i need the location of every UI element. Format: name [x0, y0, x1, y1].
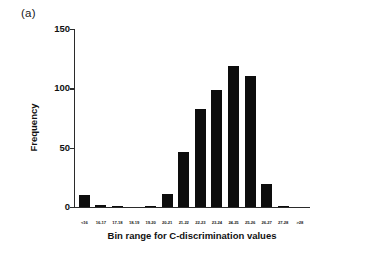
y-axis-title: Frequency [28, 73, 39, 183]
x-tick-label: 19-20 [145, 220, 155, 225]
x-tick-slot: 17-18 [109, 210, 126, 228]
bar-slot [175, 29, 192, 207]
x-tick-slot: 21-22 [175, 210, 192, 228]
x-axis-ticks: <1616-1717-1818-1919-2020-2121-2222-2323… [74, 210, 310, 228]
x-tick-label: 21-22 [179, 220, 189, 225]
panel-label: (a) [21, 7, 36, 19]
x-tick-label: >28 [296, 220, 303, 225]
x-tick-label: <16 [81, 220, 88, 225]
x-tick-label: 24-25 [228, 220, 238, 225]
bar [162, 194, 173, 207]
bar [145, 206, 156, 207]
bar-slot [109, 29, 126, 207]
x-tick-slot: 20-21 [159, 210, 176, 228]
bar-slot [242, 29, 259, 207]
bar-slot [225, 29, 242, 207]
y-tick-label: 50 [59, 142, 70, 153]
x-tick-slot: 26-27 [258, 210, 275, 228]
bar-slot [126, 29, 143, 207]
figure-panel: (a) Frequency 050100150 <1616-1717-1818-… [0, 0, 371, 253]
bar [261, 184, 272, 207]
y-tick-mark [70, 207, 75, 208]
x-tick-slot: <16 [76, 210, 93, 228]
x-tick-label: 17-18 [112, 220, 122, 225]
bar [211, 90, 222, 207]
y-tick-label: 0 [65, 201, 70, 212]
x-tick-slot: 16-17 [93, 210, 110, 228]
x-tick-label: 25-26 [245, 220, 255, 225]
x-tick-label: 18-19 [129, 220, 139, 225]
bar [195, 109, 206, 207]
x-tick-slot: >28 [292, 210, 309, 228]
bar-slot [159, 29, 176, 207]
bar-slot [275, 29, 292, 207]
x-tick-slot: 25-26 [242, 210, 259, 228]
bar-slot [258, 29, 275, 207]
bar-series [74, 29, 310, 207]
bar-slot [142, 29, 159, 207]
x-tick-label: 16-17 [96, 220, 106, 225]
x-tick-slot: 27-28 [275, 210, 292, 228]
x-tick-label: 27-28 [278, 220, 288, 225]
x-tick-slot: 22-23 [192, 210, 209, 228]
bar-slot [209, 29, 226, 207]
x-tick-label: 23-24 [212, 220, 222, 225]
bar-slot [292, 29, 309, 207]
y-tick-label: 100 [54, 82, 70, 93]
bar [278, 206, 289, 207]
bar [95, 205, 106, 207]
bar [178, 152, 189, 207]
x-tick-label: 26-27 [262, 220, 272, 225]
bar [228, 66, 239, 207]
x-tick-label: 22-23 [195, 220, 205, 225]
plot-area: 050100150 [74, 29, 310, 207]
bar [79, 195, 90, 207]
x-tick-slot: 23-24 [209, 210, 226, 228]
bar-slot [93, 29, 110, 207]
bar-slot [192, 29, 209, 207]
x-axis-title: Bin range for C-discrimination values [74, 230, 310, 241]
y-tick-label: 150 [54, 23, 70, 34]
x-tick-slot: 18-19 [126, 210, 143, 228]
x-tick-slot: 24-25 [225, 210, 242, 228]
x-tick-slot: 19-20 [142, 210, 159, 228]
bar-slot [76, 29, 93, 207]
x-tick-label: 20-21 [162, 220, 172, 225]
bar [112, 206, 123, 207]
bar [245, 76, 256, 207]
